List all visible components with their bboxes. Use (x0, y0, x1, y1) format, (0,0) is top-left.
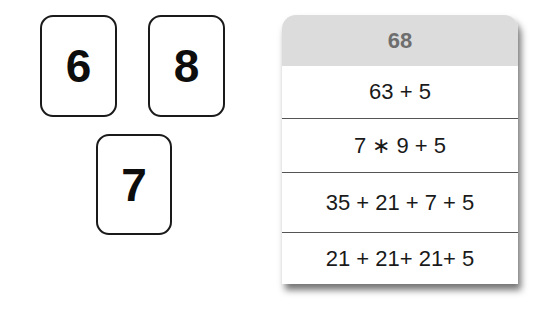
number-card-8: 8 (148, 15, 225, 117)
number-card-7: 7 (96, 134, 172, 235)
number-card-6: 6 (40, 15, 117, 117)
table-row: 35 + 21 + 7 + 5 (282, 172, 518, 232)
table-header-target: 68 (282, 15, 518, 66)
table-row: 7 ∗ 9 + 5 (282, 118, 518, 172)
expression-table: 68 63 + 5 7 ∗ 9 + 5 35 + 21 + 7 + 5 21 +… (282, 15, 518, 284)
table-row: 21 + 21+ 21+ 5 (282, 232, 518, 284)
table-row: 63 + 5 (282, 66, 518, 118)
